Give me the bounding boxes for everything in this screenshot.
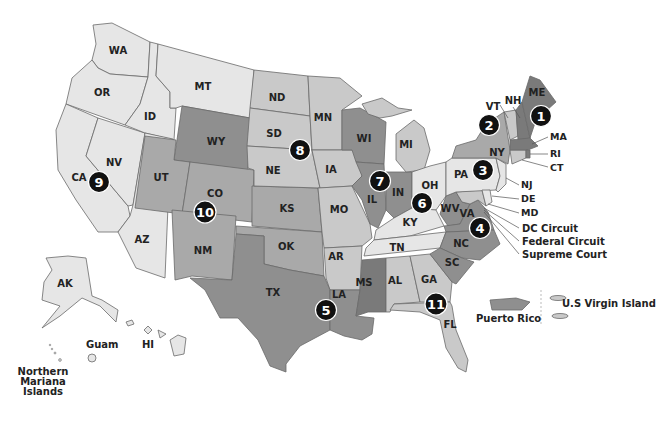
label-wy: WY (207, 136, 226, 147)
state-ri[interactable] (526, 150, 530, 158)
state-hi-2[interactable] (158, 330, 166, 338)
label-or: OR (94, 87, 111, 98)
label-de: DE (521, 193, 535, 204)
label-wi: WI (357, 133, 372, 144)
label-ar: AR (328, 251, 344, 262)
svg-text:1: 1 (536, 109, 545, 124)
svg-text:7: 7 (375, 174, 384, 189)
circuit-marker-2[interactable]: 2 (479, 115, 500, 136)
label-oh: OH (422, 180, 439, 191)
label-tx: TX (266, 287, 281, 298)
label-mt: MT (195, 81, 212, 92)
label-il: IL (367, 194, 378, 205)
label-nd: ND (269, 92, 286, 103)
label-ri: RI (550, 148, 561, 159)
label-nv: NV (106, 157, 122, 168)
territory-vi-2[interactable] (552, 314, 568, 319)
nmi-dot (51, 348, 53, 350)
circuit-marker-9[interactable]: 9 (89, 172, 110, 193)
label-la: LA (332, 289, 346, 300)
callout-dc-circuit: DC Circuit (522, 223, 578, 234)
territory-puerto-rico[interactable] (490, 298, 530, 310)
state-ma[interactable] (510, 138, 538, 150)
label-fl: FL (443, 319, 457, 330)
state-hi-3[interactable] (144, 326, 152, 334)
nmi-dot (49, 344, 51, 346)
state-ct[interactable] (510, 150, 526, 164)
label-nc: NC (453, 238, 469, 249)
label-nj: NJ (521, 179, 533, 190)
callout-supreme-court: Supreme Court (522, 249, 607, 260)
svg-text:4: 4 (475, 221, 484, 236)
state-hi-4[interactable] (126, 320, 134, 326)
circuit-marker-1[interactable]: 1 (531, 106, 552, 127)
svg-text:2: 2 (484, 118, 493, 133)
state-hi-1[interactable] (170, 335, 186, 356)
label-mn: MN (314, 112, 332, 123)
label-virgin-islands: U.S Virgin Island (562, 298, 656, 309)
circuit-marker-6[interactable]: 6 (412, 193, 433, 214)
label-puerto-rico: Puerto Rico (476, 313, 541, 324)
label-va: VA (460, 208, 475, 219)
label-ga: GA (421, 274, 437, 285)
circuit-marker-5[interactable]: 5 (316, 300, 337, 321)
label-wv: WV (441, 203, 460, 214)
label-nh: NH (505, 95, 522, 106)
label-ct: CT (550, 162, 564, 173)
circuit-marker-8[interactable]: 8 (290, 140, 311, 161)
circuit-marker-4[interactable]: 4 (470, 218, 491, 239)
label-ut: UT (154, 172, 169, 183)
circuit-marker-3[interactable]: 3 (473, 160, 494, 181)
label-wa: WA (109, 45, 128, 56)
label-me: ME (529, 87, 546, 98)
svg-text:5: 5 (321, 303, 330, 318)
label-ia: IA (325, 164, 337, 175)
label-hi: HI (142, 339, 154, 350)
svg-text:9: 9 (94, 175, 103, 190)
label-co: CO (207, 188, 223, 199)
nmi-dot (54, 352, 56, 354)
label-mi: MI (399, 139, 413, 150)
svg-text:6: 6 (417, 196, 426, 211)
label-ms: MS (355, 277, 372, 288)
label-guam: Guam (86, 339, 119, 350)
label-id: ID (144, 111, 156, 122)
state-ak[interactable] (42, 256, 118, 328)
svg-text:10: 10 (196, 205, 214, 220)
circuit-marker-10[interactable]: 10 (194, 201, 216, 223)
label-in: IN (392, 187, 404, 198)
label-az: AZ (135, 234, 150, 245)
label-ny: NY (489, 147, 505, 158)
label-ky: KY (403, 217, 419, 228)
label-mo: MO (330, 204, 348, 215)
label-ok: OK (278, 241, 296, 252)
label-pa: PA (454, 169, 468, 180)
label-ks: KS (280, 203, 295, 214)
label-vt: VT (486, 101, 501, 112)
circuit-marker-7[interactable]: 7 (370, 171, 391, 192)
label-nmi-3: Islands (23, 386, 63, 397)
label-sd: SD (266, 128, 282, 139)
svg-text:11: 11 (427, 297, 445, 312)
nmi-dot (59, 359, 62, 362)
label-al: AL (388, 275, 403, 286)
label-ak: AK (57, 278, 74, 289)
svg-text:8: 8 (295, 143, 304, 158)
svg-text:3: 3 (478, 163, 487, 178)
label-ca: CA (71, 172, 86, 183)
label-sc: SC (445, 257, 460, 268)
label-ma: MA (550, 131, 567, 142)
label-tn: TN (389, 242, 404, 253)
territory-guam[interactable] (88, 354, 96, 362)
label-md: MD (521, 207, 538, 218)
us-circuit-map: WA OR CA NV ID MT WY UT CO AZ NM ND SD N… (0, 0, 670, 421)
label-nm: NM (194, 245, 212, 256)
callout-federal-circuit: Federal Circuit (522, 236, 605, 247)
label-ne: NE (265, 165, 280, 176)
circuit-marker-11[interactable]: 11 (425, 293, 447, 315)
